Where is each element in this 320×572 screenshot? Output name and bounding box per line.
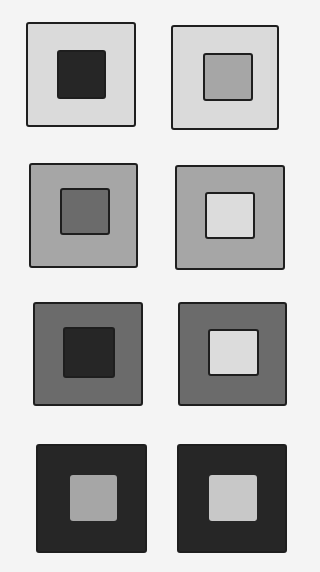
inner-square-r4c2 bbox=[209, 475, 257, 521]
inner-square-r2c2 bbox=[205, 192, 255, 239]
inner-square-r2c1 bbox=[60, 188, 110, 235]
inner-square-r4c1 bbox=[70, 475, 117, 521]
square-r1c2 bbox=[171, 25, 279, 130]
square-r1c1 bbox=[26, 22, 136, 127]
square-r2c2 bbox=[175, 165, 285, 270]
inner-square-r1c1 bbox=[57, 50, 106, 99]
square-r2c1 bbox=[29, 163, 138, 268]
square-r4c1 bbox=[36, 444, 147, 553]
inner-square-r3c1 bbox=[63, 327, 115, 378]
square-r3c1 bbox=[33, 302, 143, 406]
square-r4c2 bbox=[177, 444, 287, 553]
inner-square-r1c2 bbox=[203, 53, 253, 101]
square-r3c2 bbox=[178, 302, 287, 406]
inner-square-r3c2 bbox=[208, 329, 259, 376]
